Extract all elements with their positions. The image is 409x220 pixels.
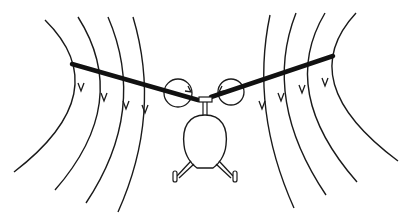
- airflow-line: [332, 13, 398, 161]
- airflow-line: [55, 17, 100, 190]
- airflow-line: [264, 15, 294, 208]
- arrow-down-icon: [78, 83, 84, 91]
- rotor-hub: [199, 97, 212, 115]
- right-flow-lines: [259, 13, 398, 208]
- arrow-down-icon: [101, 93, 107, 101]
- left-flow-lines: [14, 17, 148, 212]
- airflow-line: [14, 20, 75, 172]
- left-rotor-blade: [72, 64, 198, 100]
- arrow-down-icon: [123, 101, 129, 109]
- arrow-down-icon: [142, 105, 148, 113]
- right-rotor-blade: [211, 56, 333, 97]
- arrow-down-icon: [278, 93, 284, 101]
- fuselage: [184, 115, 227, 168]
- arrow-down-icon: [259, 101, 265, 109]
- airflow-line: [284, 13, 326, 195]
- arrow-down-icon: [299, 85, 305, 93]
- airflow-line: [307, 13, 357, 182]
- arrow-down-icon: [322, 78, 328, 86]
- helicopter-downwash-diagram: [0, 0, 409, 220]
- diagram-canvas: [0, 0, 409, 220]
